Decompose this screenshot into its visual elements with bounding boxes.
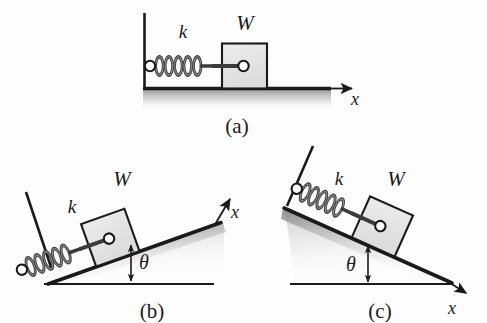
x-axis-label-a: x bbox=[350, 89, 359, 109]
pin-wall-a bbox=[145, 61, 155, 71]
ground-shading-a bbox=[143, 89, 331, 111]
spring-a bbox=[150, 57, 213, 75]
spring-b bbox=[19, 240, 83, 278]
panel-caption-c: (c) bbox=[368, 299, 391, 323]
panel-caption-a: (a) bbox=[225, 114, 248, 138]
spring-mass-figure: k W x (a) bbox=[0, 0, 487, 323]
theta-label-b: θ bbox=[139, 251, 149, 273]
weight-label-a: W bbox=[236, 11, 256, 35]
pin-block-a bbox=[238, 61, 248, 71]
panel-b: k W x θ (b) bbox=[9, 167, 239, 323]
x-axis-b bbox=[215, 199, 230, 225]
weight-label-b: W bbox=[113, 167, 133, 191]
weight-label-c: W bbox=[387, 167, 407, 191]
x-axis-label-c: x bbox=[447, 298, 456, 318]
spring-label-c: k bbox=[335, 168, 344, 189]
theta-label-c: θ bbox=[346, 253, 356, 275]
panel-a: k W x (a) bbox=[143, 11, 359, 138]
x-axis-label-b: x bbox=[230, 202, 239, 222]
spring-label-a: k bbox=[179, 21, 188, 42]
spring-label-b: k bbox=[68, 196, 77, 217]
panel-c: k W x θ (c) bbox=[281, 146, 466, 323]
panel-caption-b: (b) bbox=[140, 299, 165, 323]
